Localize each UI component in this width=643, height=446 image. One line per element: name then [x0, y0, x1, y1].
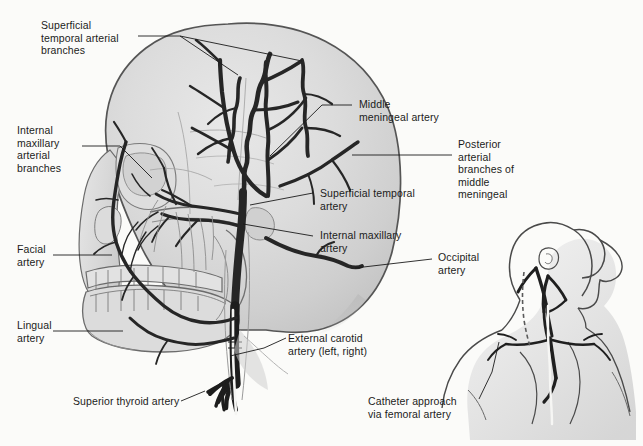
label-lingual-artery: Lingual artery	[17, 319, 52, 344]
label-facial-artery: Facial artery	[17, 243, 46, 268]
label-internal-maxillary-arterial-branches: Internal maxillary arterial branches	[17, 124, 61, 174]
neck-soft-tissue-shadow	[234, 330, 288, 390]
label-catheter-approach-via-femoral-artery: Catheter approach via femoral artery	[368, 395, 457, 420]
label-middle-meningeal-artery: Middle meningeal artery	[359, 98, 439, 123]
label-internal-maxillary-artery: Internal maxillary artery	[320, 229, 401, 254]
anatomy-figure: Superficial temporal arterial branches I…	[0, 0, 643, 446]
leader-superior-thyroid-artery	[181, 391, 205, 401]
illustration-canvas	[0, 0, 643, 446]
label-superficial-temporal-arterial-branches: Superficial temporal arterial branches	[41, 19, 119, 57]
label-posterior-arterial-branches-of-middle-meningeal: Posterior arterial branches of middle me…	[458, 138, 514, 201]
label-occipital-artery: Occipital artery	[438, 251, 479, 276]
label-superior-thyroid-artery: Superior thyroid artery	[73, 395, 179, 408]
label-external-carotid-artery: External carotid artery (left, right)	[288, 332, 367, 357]
label-superficial-temporal-artery: Superficial temporal artery	[320, 187, 415, 212]
